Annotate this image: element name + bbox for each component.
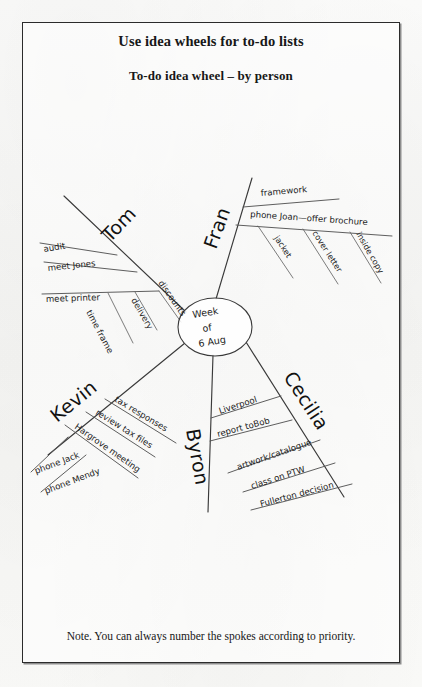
item-label-phone-mendy: phone Mendy bbox=[43, 466, 101, 496]
person-label-fran: Fran bbox=[199, 204, 234, 251]
item-label-class-ptw: class on PTW bbox=[250, 464, 307, 491]
item-label-framework: framework bbox=[260, 184, 307, 198]
item-labels-cecilia: artwork/catalogue class on PTW Fullerton… bbox=[235, 437, 334, 509]
footer-note: Note. You can always number the spokes a… bbox=[22, 630, 400, 642]
item-label-inside-copy: inside copy bbox=[354, 230, 386, 275]
item-label-liverpool: Liverpool bbox=[218, 394, 259, 416]
item-label-meet-printer: meet printer bbox=[46, 292, 101, 304]
branch-line-framework bbox=[243, 199, 339, 207]
item-label-report-bob: report toBob bbox=[216, 415, 271, 439]
item-labels-fran: framework phone Joan—offer brochure jack… bbox=[250, 184, 386, 275]
page-canvas: Use idea wheels for to-do lists To-do id… bbox=[0, 0, 422, 687]
item-label-time-frame: time frame bbox=[84, 308, 115, 355]
idea-wheel-diagram: Week of 6 Aug Tom Fran Cecilia Byron Kev… bbox=[0, 0, 422, 687]
item-labels-byron: Liverpool report toBob bbox=[216, 394, 271, 439]
item-labels-tom: audit meet Jones meet printer time frame… bbox=[43, 241, 189, 355]
item-label-audit: audit bbox=[43, 241, 67, 254]
person-label-byron: Byron bbox=[182, 427, 214, 487]
item-label-jacket: jacket bbox=[272, 233, 295, 260]
item-label-delivery: delivery bbox=[129, 296, 155, 331]
person-label-tom: Tom bbox=[96, 202, 140, 246]
item-label-meet-jones: meet Jones bbox=[47, 258, 96, 273]
hub-group: Week of 6 Aug bbox=[178, 298, 252, 356]
item-label-discounts: discounts bbox=[156, 278, 188, 318]
spoke-line-byron bbox=[208, 355, 213, 512]
item-label-phone-jack: phone Jack bbox=[33, 450, 81, 476]
item-label-phone-joan: phone Joan—offer brochure bbox=[250, 209, 368, 227]
person-label-cecilia: Cecilia bbox=[280, 367, 334, 433]
